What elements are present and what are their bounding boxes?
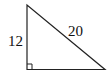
right-triangle	[27, 5, 105, 70]
triangle-diagram: 12 20	[0, 0, 109, 77]
right-angle-marker	[27, 64, 32, 70]
hypotenuse-label: 20	[68, 23, 83, 39]
vertical-leg-label: 12	[8, 33, 23, 49]
